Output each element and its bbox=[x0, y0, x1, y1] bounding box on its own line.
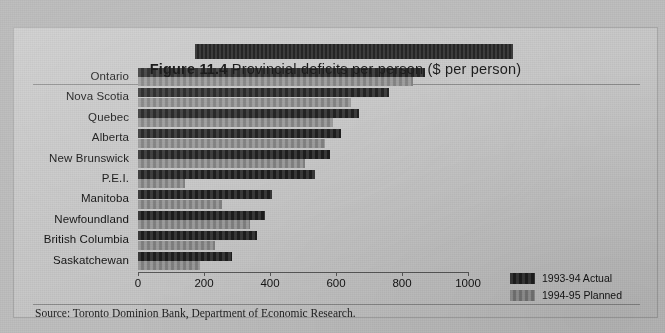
x-axis-tick bbox=[402, 272, 403, 276]
category-label: Quebec bbox=[88, 111, 129, 123]
x-axis-tick bbox=[468, 272, 469, 276]
x-axis-tick-label: 200 bbox=[194, 277, 213, 289]
legend-swatch-actual bbox=[510, 273, 535, 284]
legend-item: 1993-94 Actual bbox=[510, 272, 622, 284]
bar-actual bbox=[138, 88, 389, 97]
category-label: Manitoba bbox=[81, 192, 129, 204]
bar-actual bbox=[138, 252, 232, 261]
bar-actual bbox=[138, 150, 330, 159]
bar-actual bbox=[138, 211, 265, 220]
figure-title: Figure 11.4 Provincial deficits per pers… bbox=[13, 61, 658, 77]
figure-number: Figure 11.4 bbox=[150, 61, 228, 77]
bar-group: Manitoba bbox=[138, 190, 469, 209]
bar-planned bbox=[138, 159, 305, 168]
bar-actual bbox=[138, 129, 341, 138]
x-axis-tick bbox=[336, 272, 337, 276]
bar-planned bbox=[138, 98, 351, 107]
category-label: New Brunswick bbox=[49, 152, 129, 164]
bar-planned bbox=[138, 200, 222, 209]
legend-label: 1994-95 Planned bbox=[542, 289, 622, 301]
legend-swatch-planned bbox=[510, 290, 535, 301]
x-axis-tick bbox=[204, 272, 205, 276]
chart-legend: 1993-94 Actual1994-95 Planned bbox=[510, 272, 622, 306]
x-axis-tick-label: 400 bbox=[260, 277, 279, 289]
figure-panel: Figure 11.4 Provincial deficits per pers… bbox=[13, 27, 658, 318]
bar-planned bbox=[138, 77, 413, 86]
bar-group: Saskatchewan bbox=[138, 252, 469, 271]
x-axis-tick-label: 600 bbox=[326, 277, 345, 289]
bar-actual bbox=[138, 170, 315, 179]
x-axis-tick bbox=[138, 272, 139, 276]
legend-item: 1994-95 Planned bbox=[510, 289, 622, 301]
bar-actual bbox=[138, 231, 257, 240]
bar-group: Quebec bbox=[138, 109, 469, 128]
bar-group: Newfoundland bbox=[138, 211, 469, 230]
bar-planned bbox=[138, 261, 200, 270]
legend-label: 1993-94 Actual bbox=[542, 272, 612, 284]
bar-actual bbox=[138, 190, 272, 199]
bar-planned bbox=[138, 241, 215, 250]
category-label: Nova Scotia bbox=[66, 90, 129, 102]
x-axis-tick-label: 1000 bbox=[455, 277, 481, 289]
category-label: Alberta bbox=[92, 131, 129, 143]
category-label: British Columbia bbox=[44, 233, 129, 245]
x-axis-tick-label: 800 bbox=[392, 277, 411, 289]
bar-group: Nova Scotia bbox=[138, 88, 469, 107]
header-redaction-strip bbox=[195, 44, 513, 59]
category-label: P.E.I. bbox=[102, 172, 129, 184]
category-label: Saskatchewan bbox=[53, 254, 129, 266]
source-note: Source: Toronto Dominion Bank, Departmen… bbox=[35, 307, 356, 319]
x-axis-line bbox=[138, 272, 469, 273]
bar-group: P.E.I. bbox=[138, 170, 469, 189]
bar-planned bbox=[138, 179, 185, 188]
source-divider bbox=[33, 304, 640, 305]
bar-group: New Brunswick bbox=[138, 150, 469, 169]
x-axis-tick bbox=[270, 272, 271, 276]
bar-planned bbox=[138, 139, 325, 148]
figure-title-text: Provincial deficits per person ($ per pe… bbox=[232, 61, 521, 77]
bar-group: British Columbia bbox=[138, 231, 469, 250]
bar-group: Alberta bbox=[138, 129, 469, 148]
bar-chart-plot-area: OntarioNova ScotiaQuebecAlbertaNew Bruns… bbox=[138, 67, 469, 272]
category-label: Newfoundland bbox=[54, 213, 129, 225]
bar-actual bbox=[138, 109, 359, 118]
bar-planned bbox=[138, 220, 250, 229]
x-axis-tick-label: 0 bbox=[135, 277, 141, 289]
bar-planned bbox=[138, 118, 333, 127]
